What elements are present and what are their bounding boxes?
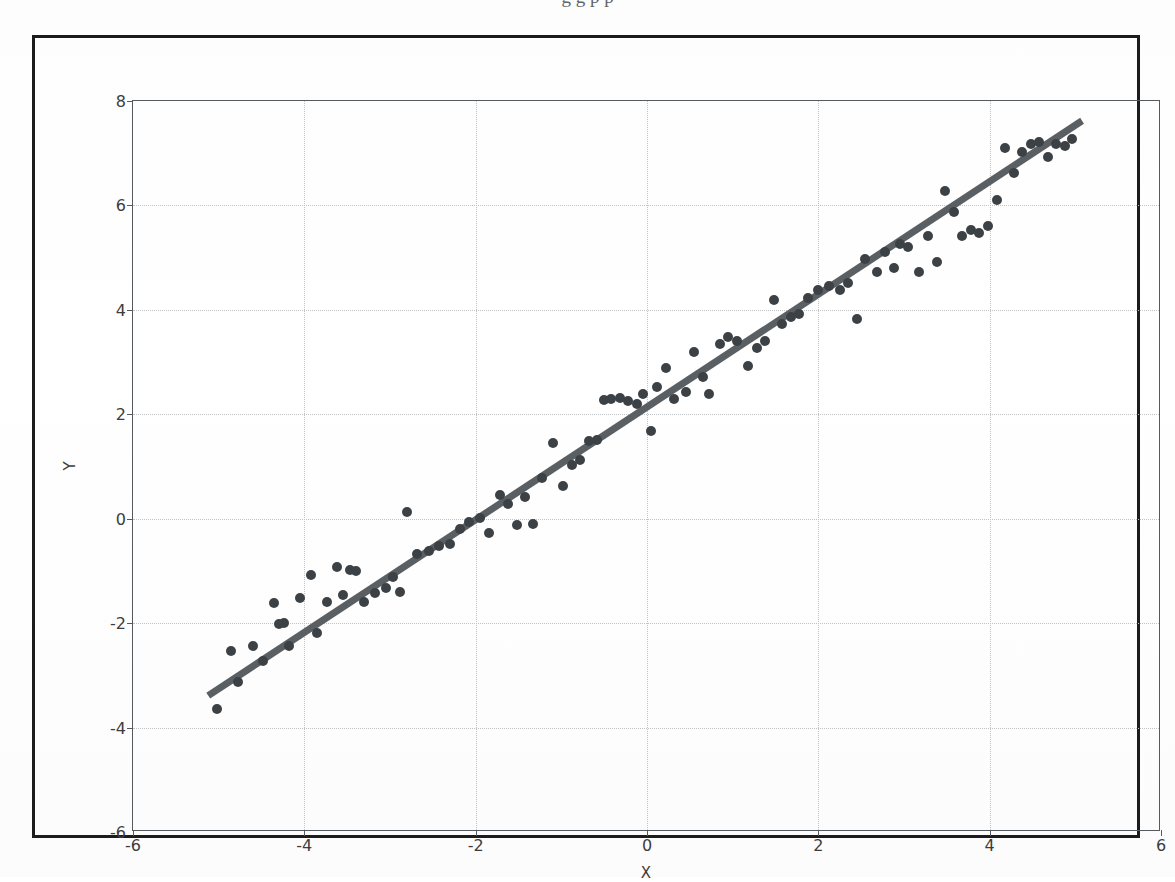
scatter-point — [889, 263, 899, 273]
scatter-point — [520, 492, 530, 502]
scatter-point — [652, 382, 662, 392]
scatter-point — [279, 618, 289, 628]
page-top-cut-text: g g p p — [0, 0, 1175, 8]
scatter-point — [1043, 152, 1053, 162]
scatter-point — [632, 399, 642, 409]
scatter-point — [940, 186, 950, 196]
scatter-point — [803, 293, 813, 303]
scatter-point — [512, 520, 522, 530]
scatter-point — [923, 231, 933, 241]
scatter-point — [949, 207, 959, 217]
scatter-point — [495, 490, 505, 500]
scatter-point — [646, 426, 656, 436]
scatter-point — [338, 590, 348, 600]
scatter-point — [932, 257, 942, 267]
scatter-point — [752, 343, 762, 353]
y-axis-tick-label: 8 — [86, 92, 126, 111]
scatter-point — [445, 539, 455, 549]
x-axis-tick-label: 4 — [960, 836, 1020, 855]
y-axis-tick-label: 0 — [86, 510, 126, 529]
scatter-point — [872, 267, 882, 277]
scatter-point — [1009, 168, 1019, 178]
y-axis-tick-label: -4 — [86, 719, 126, 738]
scatter-point — [661, 363, 671, 373]
scatter-point — [704, 389, 714, 399]
scatter-point — [284, 641, 294, 651]
scatter-point — [732, 336, 742, 346]
scatter-point — [212, 704, 222, 714]
scatter-point — [381, 583, 391, 593]
scatter-point — [843, 278, 853, 288]
scatter-point — [248, 641, 258, 651]
scatter-point — [760, 336, 770, 346]
scatter-point — [860, 254, 870, 264]
scatter-point — [295, 593, 305, 603]
scatter-point — [351, 566, 361, 576]
scatter-point — [258, 656, 268, 666]
scatter-point — [475, 513, 485, 523]
scatter-point — [312, 628, 322, 638]
scatter-point — [592, 435, 602, 445]
scatter-point — [1067, 134, 1077, 144]
scatter-point — [743, 361, 753, 371]
x-axis-tick-label: -4 — [274, 836, 334, 855]
scatter-point — [395, 587, 405, 597]
scatter-point — [914, 267, 924, 277]
scatter-point — [306, 570, 316, 580]
scatter-point — [983, 221, 993, 231]
scatter-point — [322, 597, 332, 607]
scatter-point — [455, 524, 465, 534]
scatter-point — [880, 247, 890, 257]
scatter-point — [852, 314, 862, 324]
scatter-point — [548, 438, 558, 448]
scatter-point — [233, 677, 243, 687]
scatter-point — [528, 519, 538, 529]
plot-area: X Y -6-4-20246-6-4-202468 — [132, 100, 1160, 831]
scatter-point — [835, 285, 845, 295]
scatter-point — [974, 228, 984, 238]
scatter-point — [484, 528, 494, 538]
scatter-point — [777, 319, 787, 329]
scatter-point — [332, 562, 342, 572]
x-axis-tick-label: 0 — [617, 836, 677, 855]
scatter-point — [464, 517, 474, 527]
scatter-point — [558, 481, 568, 491]
x-axis-tick-label: -2 — [446, 836, 506, 855]
scatter-point — [537, 473, 547, 483]
y-axis-tick-label: -2 — [86, 614, 126, 633]
scatter-point — [1034, 137, 1044, 147]
y-axis-tick-label: 4 — [86, 301, 126, 320]
y-axis-label: Y — [61, 461, 79, 470]
scatter-point — [388, 572, 398, 582]
scatter-point — [1000, 143, 1010, 153]
scatter-point — [903, 242, 913, 252]
scatter-point — [698, 372, 708, 382]
scatter-point — [412, 549, 422, 559]
scatter-point — [638, 389, 648, 399]
x-axis-tick-label: 2 — [788, 836, 848, 855]
scatter-point — [715, 339, 725, 349]
scatter-point — [689, 347, 699, 357]
scatter-point — [824, 281, 834, 291]
scatter-point — [813, 285, 823, 295]
scatter-point — [503, 499, 513, 509]
scatter-point — [669, 394, 679, 404]
scatter-point — [269, 598, 279, 608]
figure-frame: X Y -6-4-20246-6-4-202468 — [32, 35, 1140, 838]
x-axis-tick-label: 6 — [1131, 836, 1175, 855]
scatter-point — [681, 387, 691, 397]
y-axis-tick-label: 6 — [86, 196, 126, 215]
y-axis-tick-label: -6 — [86, 823, 126, 842]
scatter-point — [370, 588, 380, 598]
scatter-point — [1017, 147, 1027, 157]
scatter-point — [575, 455, 585, 465]
scatter-point — [794, 309, 804, 319]
y-axis-tick-label: 2 — [86, 405, 126, 424]
scatter-point — [769, 295, 779, 305]
scatter-point — [434, 541, 444, 551]
scatter-point — [992, 195, 1002, 205]
scatter-point — [402, 507, 412, 517]
scatter-point — [424, 546, 434, 556]
scatter-point — [226, 646, 236, 656]
scatter-point — [359, 597, 369, 607]
